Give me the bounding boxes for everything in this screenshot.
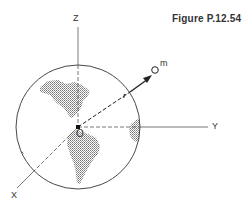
r-vector-outer [130, 79, 148, 92]
mass-label: m [160, 58, 168, 68]
r-vector-label: r [123, 91, 126, 100]
origin-label: O [76, 128, 84, 139]
x-axis-label: X [11, 190, 17, 200]
north-america-land [40, 80, 90, 118]
y-axis-label: Y [212, 121, 218, 131]
mass-point [152, 67, 159, 74]
z-axis-label: Z [73, 13, 79, 23]
earth-diagram [0, 0, 247, 209]
x-axis-outer [17, 172, 33, 188]
